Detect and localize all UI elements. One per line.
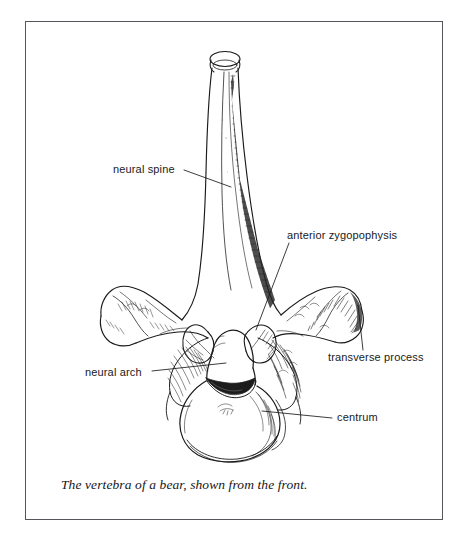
label-neural-arch: neural arch [85,366,142,378]
label-neural-spine: neural spine [113,163,175,175]
figure-border [25,21,443,520]
label-anterior-zygopophysis: anterior zygopophysis [287,229,397,241]
figure-caption: The vertebra of a bear, shown from the f… [61,477,308,493]
figure-page: neural spine anterior zygopophysis trans… [0,0,463,543]
label-centrum: centrum [337,411,378,423]
label-transverse-process: transverse process [328,351,424,363]
